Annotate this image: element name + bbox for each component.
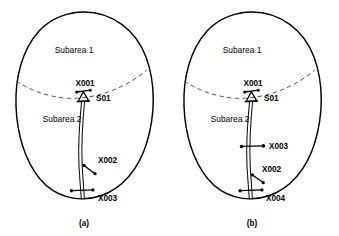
open-switch-dot-lower-icon <box>93 172 96 175</box>
substation-bus-dot-right-icon <box>257 89 260 92</box>
closed-breaker-dot-left-icon <box>70 189 73 192</box>
panel-a-label-x001: X001 <box>75 79 95 88</box>
panel-b-device-x004[interactable] <box>238 188 263 192</box>
open-switch-dot-upper-icon <box>251 173 254 176</box>
closed-breaker-dot-right-icon <box>262 144 266 148</box>
open-switch-dot-lower-icon <box>262 181 265 184</box>
panel-a-subarea-2-label: Subarea 2 <box>43 114 82 124</box>
panel-a-label-s01: S01 <box>96 94 111 103</box>
panel-a-device-x001-s01[interactable] <box>75 89 92 102</box>
panel-a-caption: (a) <box>79 219 89 228</box>
panel-b-label-x003: X003 <box>269 142 289 151</box>
panel-a-label-x003: X003 <box>98 194 118 203</box>
panel-b: Subarea 1 Subarea 2 X001 S01 X003 X002 X… <box>184 12 321 228</box>
panel-b-transmission-line-right <box>250 101 253 199</box>
closed-breaker-bar-icon <box>72 190 94 191</box>
panel-a-device-x003[interactable] <box>70 188 95 192</box>
subarea-diagram: Subarea 1 Subarea 2 X001 S01 X002 X003 (… <box>0 0 339 236</box>
panel-a-transmission-line-right <box>82 101 85 199</box>
closed-breaker-bar-icon <box>242 146 264 147</box>
substation-bus-dot-left-icon <box>243 91 246 94</box>
panel-b-device-x003[interactable] <box>240 144 265 148</box>
panel-a: Subarea 1 Subarea 2 X001 S01 X002 X003 (… <box>16 12 153 228</box>
closed-breaker-dot-left-icon <box>240 145 244 149</box>
panel-a-device-x002[interactable] <box>82 164 96 176</box>
panel-b-subarea-1-label: Subarea 1 <box>223 45 262 55</box>
closed-breaker-dot-right-icon <box>91 188 94 191</box>
figure-container: Subarea 1 Subarea 2 X001 S01 X002 X003 (… <box>0 0 339 236</box>
open-switch-blade-icon <box>253 175 264 183</box>
substation-base-line-icon <box>245 101 257 102</box>
panel-a-subarea-1-label: Subarea 1 <box>55 45 94 55</box>
panel-b-caption: (b) <box>247 219 258 228</box>
panel-b-label-s01: S01 <box>264 94 279 103</box>
substation-base-line-icon <box>77 101 89 102</box>
panel-b-device-x001-s01[interactable] <box>243 89 260 102</box>
closed-breaker-dot-left-icon <box>238 189 241 192</box>
panel-a-label-x002: X002 <box>98 156 118 165</box>
panel-b-label-x004: X004 <box>266 194 286 203</box>
panel-b-label-x001: X001 <box>243 79 263 88</box>
panel-b-subarea-2-label: Subarea 2 <box>211 114 250 124</box>
substation-bus-dot-left-icon <box>75 91 78 94</box>
closed-breaker-bar-icon <box>240 190 262 191</box>
closed-breaker-dot-right-icon <box>260 188 263 191</box>
panel-b-label-x002: X002 <box>262 165 282 174</box>
substation-triangle-icon <box>246 92 257 102</box>
open-switch-dot-upper-icon <box>82 164 85 167</box>
substation-bus-dot-right-icon <box>89 89 92 92</box>
substation-triangle-icon <box>78 92 89 102</box>
panel-b-device-x002[interactable] <box>251 173 265 184</box>
open-switch-blade-icon <box>84 166 95 174</box>
